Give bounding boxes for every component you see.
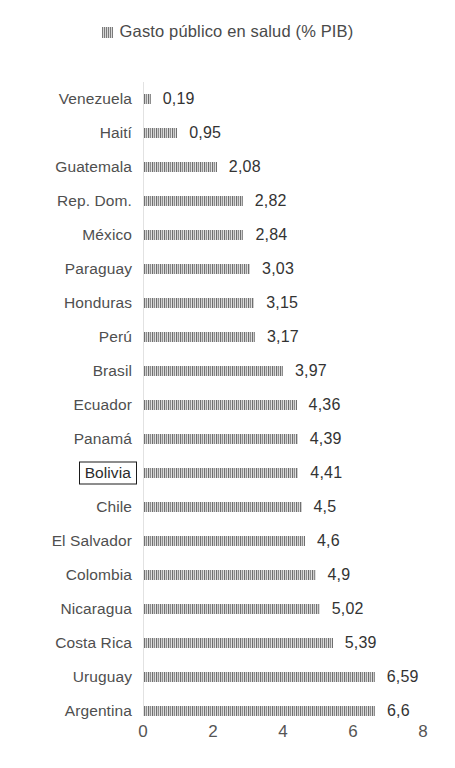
category-label: Venezuela [59,90,132,108]
bar-row: Bolivia4,41 [0,456,455,490]
bar [144,298,254,308]
bar [144,502,302,512]
category-label: Guatemala [55,158,132,176]
bar [144,468,298,478]
category-label: Brasil [93,362,132,380]
category-label: Rep. Dom. [57,192,132,210]
bar-value-label: 4,36 [309,396,341,414]
bar [144,706,375,716]
health-spending-bar-chart: Gasto público en salud (% PIB) Venezuela… [0,0,455,768]
bar-row: Venezuela0,19 [0,82,455,116]
bar-value-label: 4,41 [310,464,342,482]
category-label: Colombia [66,566,132,584]
bar-value-label: 4,6 [317,532,340,550]
bar-row: Ecuador4,36 [0,388,455,422]
bar-row: Honduras3,15 [0,286,455,320]
category-label: Bolivia [79,462,137,485]
category-label: México [82,226,132,244]
bar [144,570,316,580]
bar-value-label: 6,59 [387,668,419,686]
category-label: Chile [96,498,132,516]
bar-row: Guatemala2,08 [0,150,455,184]
bar-row: Perú3,17 [0,320,455,354]
bar [144,604,320,614]
bar [144,162,217,172]
bar-row: Paraguay3,03 [0,252,455,286]
bar-row: México2,84 [0,218,455,252]
chart-legend: Gasto público en salud (% PIB) [0,22,455,41]
x-axis: 02468 [0,722,455,752]
bar-value-label: 0,95 [189,124,221,142]
bar-value-label: 0,19 [163,90,195,108]
bar-row: Rep. Dom.2,82 [0,184,455,218]
bar [144,128,177,138]
bar-value-label: 3,15 [266,294,298,312]
bar-value-label: 5,39 [345,634,377,652]
bar [144,434,298,444]
bar-row: Panamá4,39 [0,422,455,456]
bar-value-label: 4,9 [328,566,351,584]
bar-value-label: 4,39 [310,430,342,448]
bar-row: Colombia4,9 [0,558,455,592]
bar-row: Haití0,95 [0,116,455,150]
bar-value-label: 2,08 [229,158,261,176]
category-label: Panamá [74,430,132,448]
bar [144,638,333,648]
x-axis-tick-label: 2 [208,722,217,742]
category-label: Haití [100,124,132,142]
category-label: Ecuador [74,396,132,414]
bar-value-label: 3,17 [267,328,299,346]
category-label: Honduras [64,294,132,312]
plot-area: Venezuela0,19Haití0,95Guatemala2,08Rep. … [0,78,455,718]
bar-row: Uruguay6,59 [0,660,455,694]
x-axis-tick-label: 8 [418,722,427,742]
bar-value-label: 2,82 [255,192,287,210]
bar-row: Nicaragua5,02 [0,592,455,626]
category-label: Paraguay [65,260,132,278]
x-axis-tick-label: 4 [278,722,287,742]
bar-value-label: 2,84 [255,226,287,244]
bar [144,264,250,274]
category-label: Argentina [65,702,132,720]
bar-row: El Salvador4,6 [0,524,455,558]
category-label: Uruguay [73,668,132,686]
bar-value-label: 5,02 [332,600,364,618]
bar [144,400,297,410]
bar [144,94,151,104]
bar [144,196,243,206]
bar [144,672,375,682]
bar [144,332,255,342]
striped-square-icon [102,27,113,38]
category-label: Nicaragua [60,600,132,618]
bar [144,536,305,546]
category-label: El Salvador [52,532,132,550]
bar-row: Chile4,5 [0,490,455,524]
bar-row: Brasil3,97 [0,354,455,388]
bar-row: Costa Rica5,39 [0,626,455,660]
x-axis-tick-label: 6 [348,722,357,742]
category-label: Costa Rica [55,634,132,652]
chart-title: Gasto público en salud (% PIB) [120,22,354,41]
bar [144,366,283,376]
bar [144,230,243,240]
bar-value-label: 6,6 [387,702,410,720]
bar-value-label: 4,5 [314,498,337,516]
category-label: Perú [99,328,132,346]
bar-value-label: 3,97 [295,362,327,380]
x-axis-tick-label: 0 [138,722,147,742]
bar-value-label: 3,03 [262,260,294,278]
